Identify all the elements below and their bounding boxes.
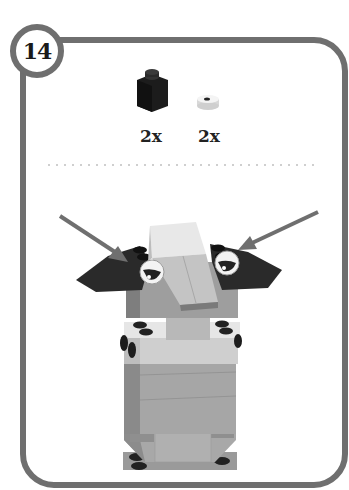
dotted-separator [45,164,317,166]
part-round-tile-icon [197,95,219,110]
model-head [76,222,282,318]
model-body [120,316,242,470]
part-black-brick-icon [137,69,168,112]
right-eye-icon [215,251,239,275]
right-arrow-icon [238,212,318,250]
left-eye-icon [140,260,164,284]
part-quantity-brick: 2x [140,126,162,146]
illustration-layer [0,0,349,490]
part-quantity-tile: 2x [198,126,220,146]
left-arrow-icon [60,216,128,262]
